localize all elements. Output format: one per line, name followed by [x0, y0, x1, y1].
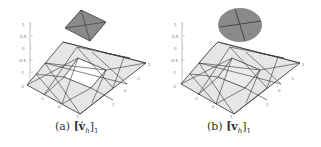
panel-b: 1 0.5 0 -0.5 -1 -2	[160, 0, 320, 118]
svg-text:0: 0	[124, 88, 127, 93]
caption-b: (b) [vh]1	[207, 120, 251, 135]
svg-text:0: 0	[212, 104, 215, 109]
svg-text:0.5: 0.5	[20, 34, 27, 39]
svg-text:1: 1	[76, 114, 79, 118]
svg-text:-1: -1	[194, 96, 198, 101]
svg-text:-1: -1	[20, 70, 24, 75]
svg-text:0: 0	[22, 46, 25, 51]
svg-text:1: 1	[174, 22, 177, 27]
mesh-plot-b: 1 0.5 0 -0.5 -1 -2	[160, 0, 320, 118]
svg-text:-0.5: -0.5	[18, 58, 26, 63]
mesh-plot-a: 1 0.5 0 -0.5 -1 -2	[0, 0, 160, 118]
svg-text:1: 1	[266, 102, 269, 107]
svg-text:-1: -1	[136, 76, 140, 81]
svg-text:0: 0	[174, 46, 177, 51]
svg-text:0: 0	[58, 104, 61, 109]
caption-a: (a) [v̇h]1	[55, 120, 99, 135]
svg-text:0: 0	[278, 88, 281, 93]
svg-text:-1: -1	[40, 96, 44, 101]
svg-text:1: 1	[22, 22, 25, 27]
svg-text:-0.5: -0.5	[170, 58, 178, 63]
svg-text:-1: -1	[290, 76, 294, 81]
svg-text:1: 1	[230, 114, 233, 118]
svg-text:-2: -2	[20, 84, 24, 89]
raised-disk-patch	[218, 8, 262, 42]
svg-text:2: 2	[148, 62, 151, 67]
raised-square-patch	[65, 10, 106, 41]
svg-text:0.5: 0.5	[172, 34, 179, 39]
svg-text:-2: -2	[172, 84, 176, 89]
svg-text:-1: -1	[172, 70, 176, 75]
svg-text:1: 1	[112, 102, 115, 107]
panel-a: 1 0.5 0 -0.5 -1 -2	[0, 0, 160, 118]
svg-text:2: 2	[302, 62, 305, 67]
